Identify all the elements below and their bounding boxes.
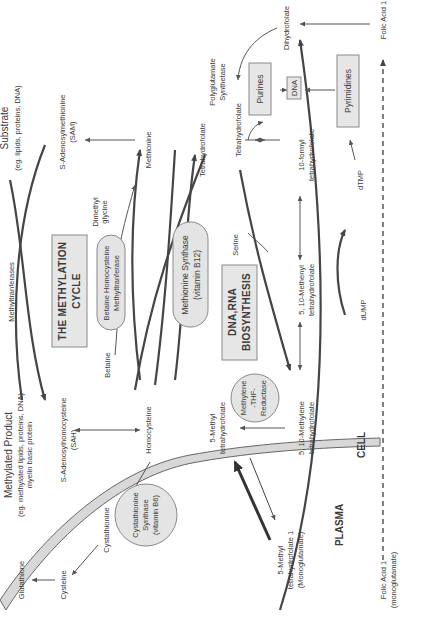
folic-acid-plasma-label: Folic Acid 1	[379, 561, 388, 599]
methionine-label: Methionine	[144, 132, 153, 169]
methylated-product-sub: (eg. methylated lipids, proteins, DNA)	[16, 392, 25, 517]
svg-text:Cystathionine: Cystathionine	[131, 492, 140, 537]
methylated-product-sub-2: myelin basic protein	[25, 422, 34, 488]
dna-box: DNA	[287, 77, 301, 99]
betaine-label: Betaine	[103, 352, 112, 377]
svg-text:Methyltranferase: Methyltranferase	[112, 255, 121, 311]
svg-text:Purines: Purines	[255, 75, 265, 104]
methyl-thf-label-2: tetrahydrofolate	[218, 402, 227, 454]
folic-acid-plasma-label-2: (monoglutamate)	[389, 551, 398, 608]
svg-text:-THF-: -THF-	[249, 388, 258, 408]
purines-box: Purines	[249, 63, 271, 115]
tetrahydrofolate-mid: Tetrahydrofolate	[234, 103, 243, 157]
svg-text:(vitamin B12): (vitamin B12)	[192, 250, 202, 300]
plasma-mthf-label-2: tetrahydrofolate 1	[286, 531, 295, 589]
cysteine-label: Cysteine	[59, 570, 68, 599]
methyl-thf-label: 5-Methyl	[208, 413, 217, 442]
svg-text:BIOSYNTHESIS: BIOSYNTHESIS	[241, 273, 252, 351]
sam-label-2: (SAM)	[68, 121, 77, 143]
svg-text:Methionine Synthase: Methionine Synthase	[180, 235, 190, 315]
substrate-sub: (eg. lipids, proteins, DNA)	[13, 85, 22, 171]
methenyl-thf-label: 5, 10-Methenyl	[297, 265, 306, 315]
methylation-cycle-box: THE METHYLATION CYCLE	[52, 235, 87, 347]
methylene-thf-label-2: tetrahydrofolate	[307, 402, 316, 454]
cell-region-label: CELL	[356, 432, 367, 458]
svg-text:CYCLE: CYCLE	[71, 273, 82, 308]
dtmp-label: dTMP	[356, 170, 365, 190]
svg-text:Synthase: Synthase	[141, 499, 150, 530]
plasma-region-label: PLASMA	[334, 504, 345, 546]
cystathionine-arrow	[72, 545, 98, 575]
cell-membrane	[0, 438, 380, 610]
methenyl-thf-label-2: tetrahydrofolate	[307, 264, 316, 316]
dimethylglycine-label: Dimethyl	[91, 197, 100, 227]
svg-text:Methylene: Methylene	[239, 381, 248, 416]
glutathione-label: Glutathione	[17, 561, 26, 599]
formyl-thf-label-2: tetrahydrofolate	[307, 129, 316, 181]
dna-rna-biosynthesis-box: DNA,RNA BIOSYNTHESIS	[222, 265, 257, 360]
polyglutamate-label-2: Synthetase	[218, 63, 227, 101]
sam-label: S-Adenosylmethionine	[58, 94, 67, 169]
methylene-thf-label: 5, 10-Methylene	[297, 401, 306, 455]
svg-text:THE METHYLATION: THE METHYLATION	[57, 242, 68, 341]
plasma-mthf-label: 5-Methyl	[276, 545, 285, 574]
cystathionine-label: Cystathionine	[102, 507, 111, 552]
dimethylglycine-label-2: glycine	[100, 200, 109, 223]
svg-text:Pyrimidines: Pyrimidines	[343, 69, 353, 113]
methyltransferases-label: Methyltranferases	[7, 262, 16, 322]
cbs-enzyme: Cystathionine Synthase (vitamin B6)	[115, 484, 177, 546]
tetrahydrofolate-top: Tetrahydrofolate	[198, 123, 207, 177]
folic-acid-top-label: Folic Acid 1	[379, 1, 388, 39]
svg-text:Reductase: Reductase	[259, 380, 268, 416]
homocysteine-label: Homocysteine	[144, 406, 153, 454]
bhmt-enzyme: Betaine Homocysteine Methyltranferase	[97, 235, 125, 330]
formyl-thf-label: 10-formyl	[297, 139, 306, 171]
pyrimidines-box: Pyrimidines	[337, 55, 359, 127]
mthfr-enzyme: Methylene -THF- Reductase	[231, 374, 279, 422]
sah-label: S-Adenosylhomocysteine	[59, 398, 68, 483]
dump-label: dUMP	[359, 300, 368, 321]
serine-label: Serine	[231, 234, 240, 256]
polyglutamate-label: Polyglutamate	[208, 58, 217, 106]
svg-text:Betaine Homocysteine: Betaine Homocysteine	[102, 245, 111, 320]
methionine-synthase-enzyme: Methionine Synthase (vitamin B12)	[173, 222, 208, 327]
svg-text:(vitamin B6): (vitamin B6)	[151, 494, 160, 535]
sah-label-2: (SAH)	[69, 429, 78, 450]
folate-methylation-diagram: THE METHYLATION CYCLE DNA,RNA BIOSYNTHES…	[0, 0, 422, 623]
svg-text:DNA: DNA	[290, 80, 299, 96]
dihydrofolate-label: Dihydrofolate	[282, 6, 291, 50]
transport-in-arrow	[235, 462, 270, 540]
substrate-title: Substrate	[0, 106, 10, 149]
plasma-mthf-label-3: (Monoglutamate)	[296, 531, 305, 588]
transport-out-arrow	[250, 458, 275, 520]
svg-text:DNA,RNA: DNA,RNA	[227, 288, 238, 336]
methylated-product-title: Methylated Product	[3, 412, 14, 498]
